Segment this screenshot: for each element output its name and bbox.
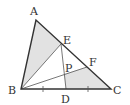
label-f: F <box>89 56 97 69</box>
label-d: D <box>61 93 70 105</box>
label-e: E <box>63 34 71 47</box>
label-p: P <box>65 62 73 75</box>
label-b: B <box>8 84 16 97</box>
shaded-triangle-abe <box>21 20 61 89</box>
label-c: C <box>113 84 121 97</box>
geometry-diagram: A E F P B D C <box>0 0 130 105</box>
label-a: A <box>29 5 39 18</box>
